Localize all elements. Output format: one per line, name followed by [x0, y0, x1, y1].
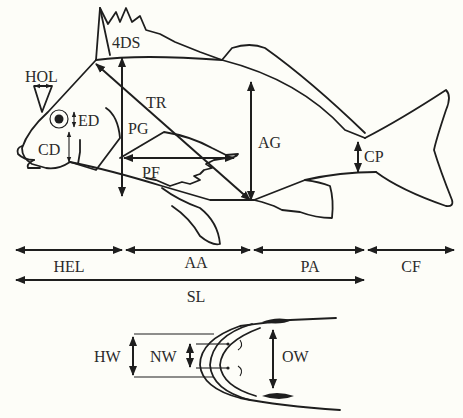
label-pf: PF — [142, 164, 160, 181]
label-hol: HOL — [25, 68, 58, 85]
label-nw: NW — [150, 348, 178, 365]
hol-funnel — [34, 86, 52, 112]
label-ow: OW — [282, 348, 310, 365]
label-pg: PG — [128, 120, 149, 137]
label-hw: HW — [94, 348, 122, 365]
label-ag: AG — [258, 134, 282, 151]
label-cf: CF — [401, 258, 421, 275]
label-hel: HEL — [53, 258, 84, 275]
label-ed: ED — [78, 112, 99, 129]
eye-pupil — [55, 115, 64, 124]
label-4ds: 4DS — [112, 34, 140, 51]
label-aa: AA — [184, 254, 208, 271]
label-cp: CP — [364, 148, 384, 165]
fish-morphometrics-diagram: 4DS HOL ED CD TR PG PF AG CP HEL AA PA C… — [0, 0, 463, 418]
label-tr: TR — [146, 94, 167, 111]
label-sl: SL — [187, 288, 206, 305]
label-pa: PA — [301, 258, 320, 275]
label-cd: CD — [38, 141, 60, 158]
